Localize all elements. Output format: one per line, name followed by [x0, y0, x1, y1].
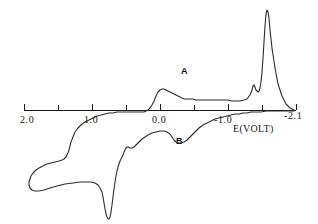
x-axis-title: E(VOLT) [233, 123, 274, 134]
x-tick-label-0p0: 0.0 [152, 114, 166, 125]
annotation-peak-a: A [181, 66, 188, 76]
x-tick-label-2p0: 2.0 [20, 114, 34, 125]
x-tick-label-m2p1: -2.1 [284, 110, 302, 121]
x-axis-ticks [24, 104, 296, 110]
annotation-peak-b: B [176, 136, 183, 146]
x-tick-label-1p0: 1.0 [84, 114, 98, 125]
cyclic-voltammogram-figure: 2.0 1.0 0.0 -1.0 -2.1 E(VOLT) A B [0, 0, 318, 224]
x-tick-label-m1p0: -1.0 [214, 114, 232, 125]
voltammogram-plot-canvas [0, 0, 318, 224]
